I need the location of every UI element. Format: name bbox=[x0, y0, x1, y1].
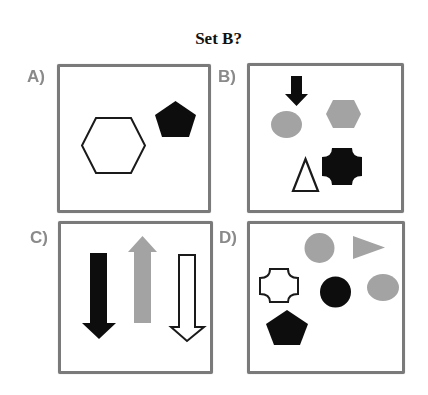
d-black-circle-shape bbox=[320, 277, 351, 308]
a-hexagon-shape bbox=[82, 118, 145, 173]
b-gray-ellipse-shape bbox=[271, 111, 302, 138]
b-gray-hexagon-shape bbox=[326, 100, 361, 128]
d-white-cross-shape bbox=[260, 269, 298, 302]
a-pentagon-shape bbox=[155, 101, 196, 137]
shapes-layer bbox=[0, 0, 428, 395]
d-gray-ellipse-shape bbox=[367, 274, 399, 301]
c-white-down-arrow-shape bbox=[171, 255, 204, 341]
d-gray-triangle-shape bbox=[353, 236, 385, 259]
b-down-arrow-shape bbox=[285, 76, 308, 106]
c-gray-up-arrow-shape bbox=[128, 236, 157, 323]
d-gray-circle-shape bbox=[305, 233, 335, 263]
b-white-triangle-shape bbox=[293, 159, 318, 191]
c-black-down-arrow-shape bbox=[82, 253, 116, 339]
b-black-cross-shape bbox=[322, 148, 362, 185]
d-black-pentagon-shape bbox=[266, 310, 308, 345]
